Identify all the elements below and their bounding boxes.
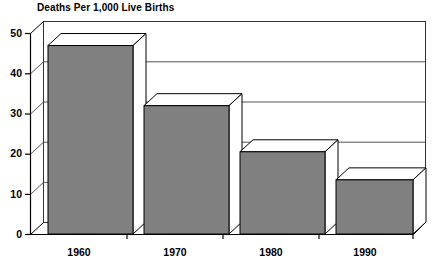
- bar-1960[interactable]: [48, 34, 146, 234]
- y-tick-label-50: 50: [0, 27, 22, 39]
- bar-1980[interactable]: [240, 140, 338, 234]
- y-tick-label-10: 10: [0, 188, 22, 200]
- chart-plot-area: [0, 0, 434, 270]
- y-tick-label-0: 0: [0, 228, 22, 240]
- x-tick-label-1990: 1990: [338, 246, 392, 258]
- y-tick-label-40: 40: [0, 67, 22, 79]
- y-tick-label-30: 30: [0, 107, 22, 119]
- y-tick-label-20: 20: [0, 147, 22, 159]
- bar-chart: Deaths Per 1,000 Live Births: [0, 0, 434, 270]
- x-tick-label-1960: 1960: [52, 246, 106, 258]
- y-axis: [25, 22, 44, 235]
- bar-1970[interactable]: [144, 94, 242, 234]
- x-tick-label-1980: 1980: [244, 246, 298, 258]
- bar-1990[interactable]: [336, 168, 426, 234]
- x-tick-label-1970: 1970: [148, 246, 202, 258]
